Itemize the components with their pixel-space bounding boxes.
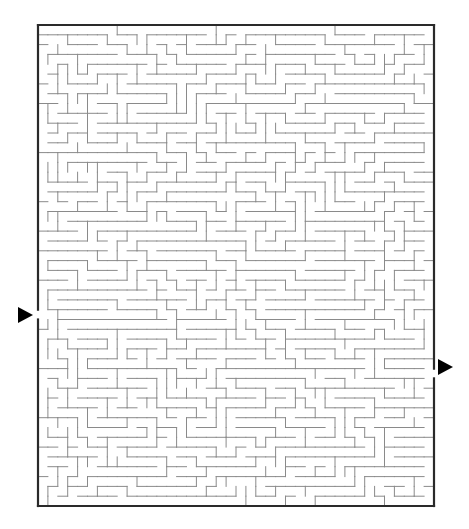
maze-canvas[interactable]	[0, 0, 469, 529]
maze-walls	[38, 25, 434, 506]
finish-arrow-icon	[438, 359, 453, 375]
maze-puzzle	[0, 0, 469, 529]
start-arrow-icon	[18, 307, 33, 323]
